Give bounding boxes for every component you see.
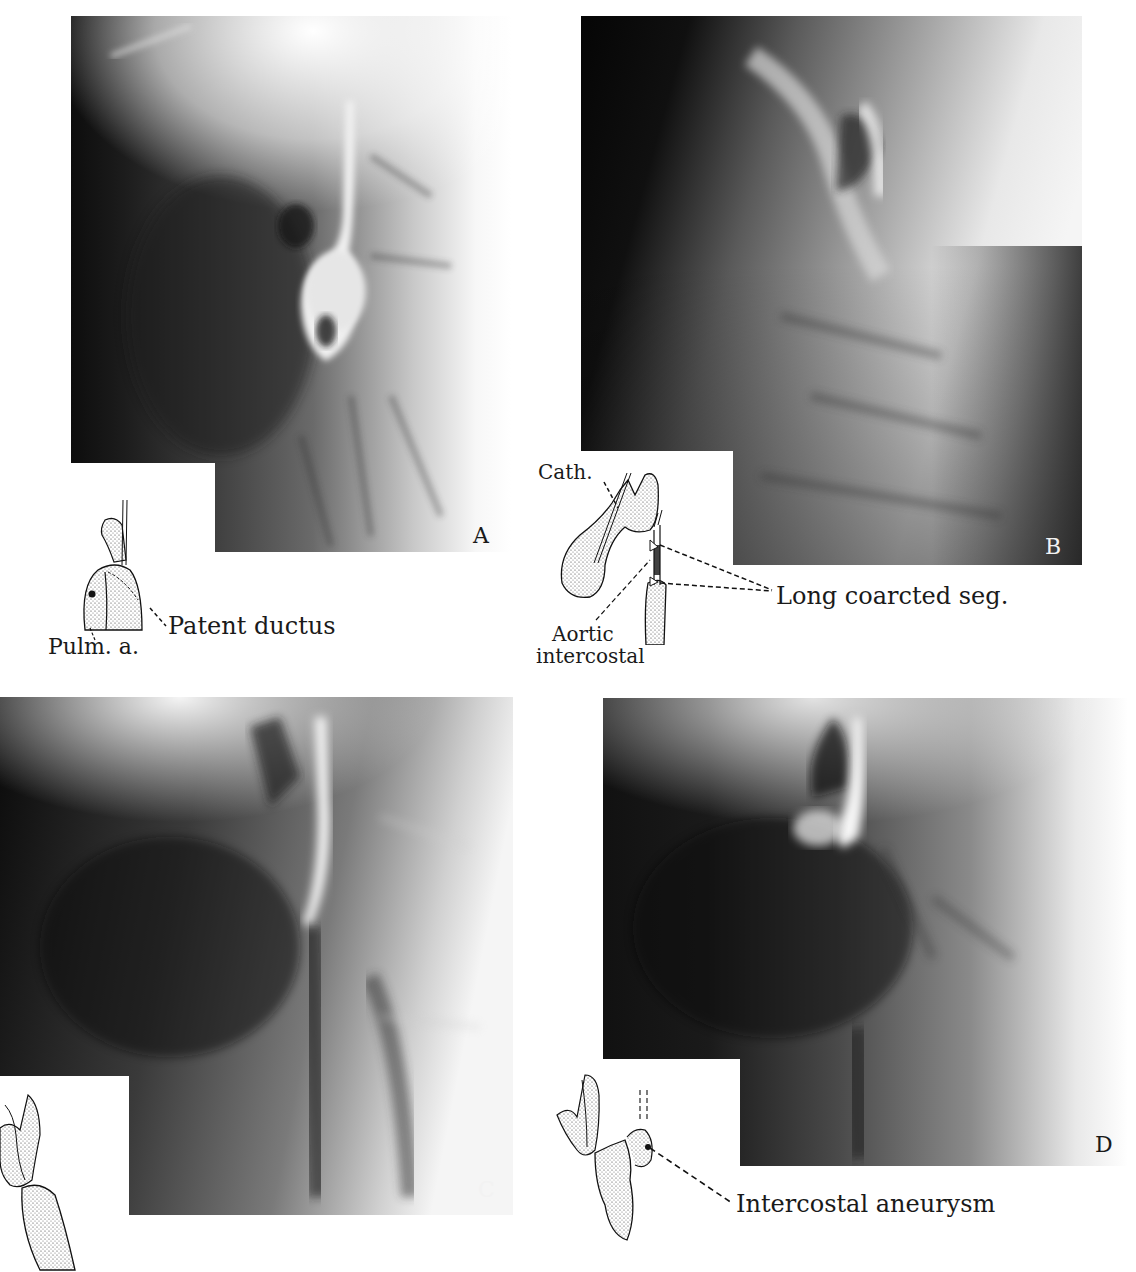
sketch-coarctation — [550, 465, 690, 645]
label-intercostal: intercostal — [536, 646, 645, 666]
panel-letter-d: D — [1095, 1134, 1113, 1156]
sketch-patent-ductus — [70, 490, 180, 650]
panel-d-radiograph: D — [603, 698, 1128, 1166]
panel-letter-a: A — [473, 525, 489, 547]
label-pulm-a: Pulm. a. — [48, 636, 139, 658]
sketch-intercostal-aneurysm — [555, 1065, 675, 1245]
label-cath: Cath. — [538, 462, 593, 482]
sketch-aorta-c — [0, 1090, 80, 1272]
panel-a-radiograph: A — [71, 16, 511, 552]
label-patent-ductus: Patent ductus — [168, 614, 336, 638]
label-intercostal-aneurysm: Intercostal aneurysm — [736, 1192, 995, 1216]
panel-letter-b: B — [1045, 536, 1061, 558]
label-long-coarcted-seg: Long coarcted seg. — [776, 584, 1008, 608]
label-aortic: Aortic — [552, 624, 614, 644]
panel-letter-c: C — [478, 1179, 495, 1201]
